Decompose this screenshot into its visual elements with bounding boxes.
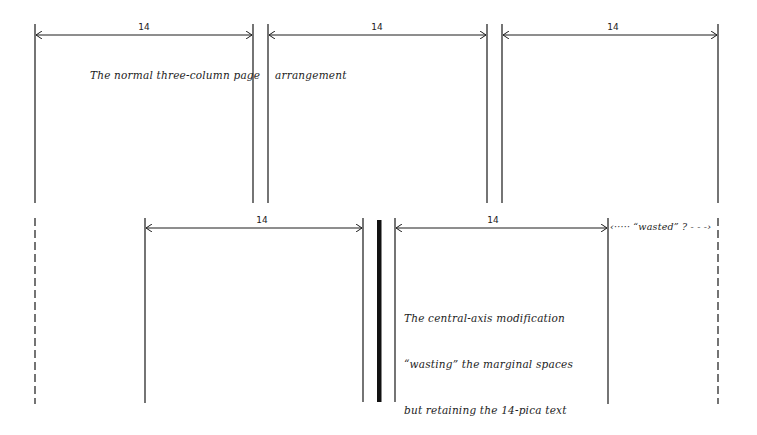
top-col1-width-label: 14 xyxy=(138,22,149,32)
page-layout-diagram: 14 14 14 14 14 The normal three-column p… xyxy=(0,0,757,435)
top-caption-part1: The normal three-column page xyxy=(90,69,260,81)
bottom-col2-width-label: 14 xyxy=(487,215,498,225)
top-row-columns xyxy=(35,24,718,203)
wasted-margin-annotation: ‹····· “wasted” ? - - -› xyxy=(610,221,711,232)
bottom-caption: The central-axis modification “wasting” … xyxy=(404,281,582,435)
diagram-lines xyxy=(0,0,757,435)
bottom-caption-line: but retaining the 14-pica text xyxy=(404,403,582,418)
central-axis-thick-bar xyxy=(377,220,382,402)
top-col2-width-label: 14 xyxy=(371,22,382,32)
bottom-row-margins xyxy=(35,218,718,404)
bottom-col1-width-label: 14 xyxy=(256,215,267,225)
top-caption-part2: arrangement xyxy=(275,69,347,81)
bottom-caption-line: The central-axis modification xyxy=(404,311,582,326)
bottom-caption-line: “wasting” the marginal spaces xyxy=(404,357,582,372)
top-col3-width-label: 14 xyxy=(607,22,618,32)
